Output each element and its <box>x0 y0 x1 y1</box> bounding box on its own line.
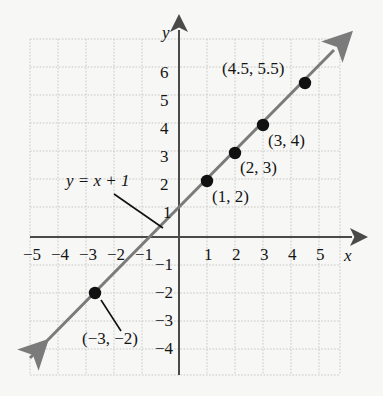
line-y-equals-x-plus-1 <box>30 50 334 358</box>
data-point <box>201 175 213 187</box>
x-tick-minus-3: −3 <box>79 246 97 263</box>
x-tick-2: 2 <box>232 246 241 263</box>
data-point <box>299 77 311 89</box>
point-label-minus-3-minus-2: (−3, −2) <box>82 330 138 347</box>
x-tick-minus-5: −5 <box>23 246 41 263</box>
y-tick-2: 2 <box>160 176 169 193</box>
y-tick-minus-1: −1 <box>155 256 173 273</box>
x-tick-minus-2: −2 <box>107 246 125 263</box>
y-tick-3: 3 <box>160 148 169 165</box>
point-label-3-4: (3, 4) <box>268 132 305 149</box>
data-point <box>257 119 269 131</box>
x-tick-1: 1 <box>204 246 213 263</box>
y-tick-minus-4: −4 <box>155 340 173 357</box>
equation-leader-line <box>114 194 163 228</box>
y-tick-4: 4 <box>160 120 169 137</box>
point-label-2-3: (2, 3) <box>240 159 277 176</box>
y-tick-minus-3: −3 <box>155 312 173 329</box>
x-tick-minus-1: −1 <box>135 246 153 263</box>
x-axis-label: x <box>344 247 352 264</box>
x-tick-3: 3 <box>260 246 269 263</box>
y-tick-minus-2: −2 <box>155 284 173 301</box>
graph-figure: y x 6 5 4 3 2 1 −1 −2 −3 −4 −5 −4 −3 −2 … <box>0 0 383 396</box>
point-label-4-5-5-5: (4.5, 5.5) <box>222 60 284 77</box>
x-tick-5: 5 <box>316 246 325 263</box>
point-label-leader-line <box>101 300 121 331</box>
point-label-1-2: (1, 2) <box>212 188 249 205</box>
y-tick-1: 1 <box>163 204 172 221</box>
data-point <box>89 287 101 299</box>
y-axis-label: y <box>162 24 170 41</box>
y-tick-5: 5 <box>160 92 169 109</box>
coordinate-plane-svg <box>0 0 383 396</box>
y-tick-6: 6 <box>160 64 169 81</box>
x-tick-4: 4 <box>288 246 297 263</box>
x-tick-minus-4: −4 <box>51 246 69 263</box>
equation-label: y = x + 1 <box>66 172 130 189</box>
